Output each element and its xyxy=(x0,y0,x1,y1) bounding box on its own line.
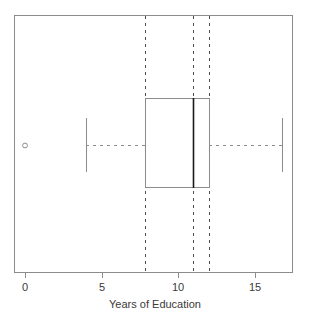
x-tick-label-10: 10 xyxy=(172,281,184,293)
boxplot-canvas: 0 5 10 15 Years of Education xyxy=(0,0,310,318)
x-tick-label-15: 15 xyxy=(249,281,261,293)
plot-frame xyxy=(15,16,293,273)
x-tick-label-5: 5 xyxy=(99,281,105,293)
x-tick-label-0: 0 xyxy=(22,281,28,293)
x-axis-ticks xyxy=(26,273,256,278)
x-axis-title: Years of Education xyxy=(109,298,201,310)
reference-lines xyxy=(146,16,210,272)
boxplot-figure: 0 5 10 15 Years of Education xyxy=(0,0,310,318)
outlier-point xyxy=(23,143,28,148)
box-iqr xyxy=(146,99,210,188)
